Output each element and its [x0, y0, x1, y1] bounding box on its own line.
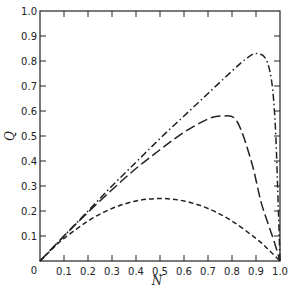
series-dashed-curve — [40, 199, 280, 262]
y-tick-label: 0.7 — [21, 81, 37, 92]
y-tick-label: 0.1 — [21, 231, 37, 242]
x-tick-label: 0.3 — [104, 266, 120, 277]
y-tick-label: 0.9 — [21, 31, 37, 42]
line-chart: 00.10.20.30.40.50.60.70.80.91.0 0.10.20.… — [0, 0, 293, 291]
y-axis-tick-labels: 0.10.20.30.40.50.60.70.80.91.0 — [21, 6, 37, 242]
x-tick-label: 0.4 — [128, 266, 144, 277]
x-tick-label: 0 — [31, 265, 37, 276]
y-tick-label: 0.4 — [21, 156, 37, 167]
series-long-dashed-curve — [40, 116, 280, 261]
series-dash-dot-curve — [40, 54, 280, 262]
x-tick-label: 1.0 — [272, 266, 288, 277]
y-tick-label: 0.5 — [21, 131, 37, 142]
x-tick-label: 0.7 — [200, 266, 216, 277]
y-tick-label: 0.6 — [21, 106, 37, 117]
series-layer — [40, 54, 280, 262]
x-tick-label: 0.8 — [224, 266, 240, 277]
y-axis-label: Q — [3, 131, 17, 141]
y-tick-label: 0.8 — [21, 56, 37, 67]
x-axis-label: N — [151, 274, 163, 288]
x-tick-label: 0.6 — [176, 266, 192, 277]
y-tick-label: 0.3 — [21, 181, 37, 192]
y-tick-label: 0.2 — [21, 206, 37, 217]
x-tick-label: 0.2 — [80, 266, 96, 277]
y-tick-label: 1.0 — [21, 6, 37, 17]
x-tick-label: 0.9 — [248, 266, 264, 277]
x-tick-label: 0.1 — [56, 266, 72, 277]
